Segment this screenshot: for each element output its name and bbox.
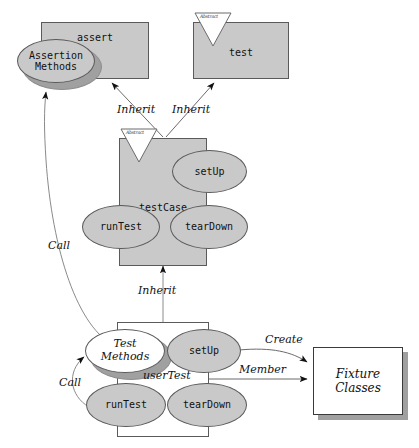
- abstract-label-testcase: Abstract: [126, 130, 144, 136]
- edge-label-create: Create: [265, 333, 303, 346]
- ellipse-testcase-runtest[interactable]: runTest: [82, 205, 160, 249]
- ellipse-usertest-teardown[interactable]: tearDown: [167, 383, 247, 427]
- edge-label-inherit-test: Inherit: [172, 103, 210, 116]
- ellipse-testcase-setup[interactable]: setUp: [172, 150, 247, 193]
- edge-create-fixture: [239, 349, 307, 362]
- ellipse-usertest-setup[interactable]: setUp: [167, 329, 241, 373]
- abstract-label-test: Abstract: [200, 14, 218, 20]
- class-box-test-label: test: [194, 47, 288, 58]
- diagram-canvas: assert Assertion Methods test Abstract t…: [0, 0, 419, 448]
- class-box-fixture-classes[interactable]: Fixture Classes: [313, 347, 403, 415]
- class-box-fixture-classes-label: Fixture Classes: [314, 367, 402, 396]
- edge-label-member: Member: [239, 363, 286, 376]
- class-box-test[interactable]: test: [193, 22, 289, 79]
- ellipse-test-methods[interactable]: Test Methods: [85, 329, 165, 373]
- edge-label-inherit-testcase: Inherit: [138, 284, 176, 297]
- ellipse-assertion-methods[interactable]: Assertion Methods: [17, 39, 95, 83]
- edge-label-call-test-methods: Call: [59, 376, 81, 389]
- class-box-usertest-label: userTest: [143, 369, 191, 382]
- ellipse-testcase-teardown[interactable]: tearDown: [170, 205, 248, 249]
- edge-label-inherit-assert: Inherit: [117, 103, 155, 116]
- ellipse-usertest-runtest[interactable]: runTest: [86, 383, 166, 427]
- edge-label-call-assertion-methods: Call: [48, 239, 70, 252]
